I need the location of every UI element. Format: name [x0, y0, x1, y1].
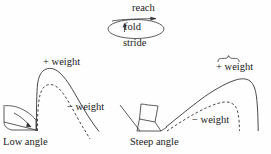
- reach-label: reach: [132, 3, 155, 14]
- left-minus-weight-label: − weight: [67, 102, 104, 113]
- right-plus-weight-label: + weight: [216, 62, 253, 73]
- left-plus-weight-curve: [36, 68, 99, 131]
- low-angle-ski-icon: [3, 106, 36, 131]
- figure-root: reach fold stride + weight − weight Low …: [0, 0, 271, 154]
- stride-label: stride: [123, 38, 146, 49]
- steep-angle-ski-icon: [120, 104, 167, 131]
- fold-label: fold: [124, 22, 141, 33]
- right-minus-weight-label: − weight: [192, 115, 229, 126]
- low-angle-caption: Low angle: [3, 137, 48, 148]
- left-plus-weight-label: + weight: [43, 57, 80, 68]
- steep-angle-caption: Steep angle: [130, 137, 179, 148]
